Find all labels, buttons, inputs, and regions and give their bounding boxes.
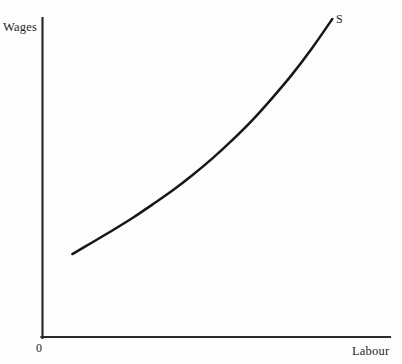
supply-curve-path	[72, 19, 332, 254]
origin-label: 0	[36, 341, 42, 356]
x-axis-title: Labour	[352, 344, 389, 359]
supply-curve-label: S	[336, 12, 343, 27]
y-axis-title: Wages	[3, 20, 37, 35]
chart-canvas	[0, 0, 402, 364]
supply-curve-figure: Wages Labour 0 S	[0, 0, 402, 364]
